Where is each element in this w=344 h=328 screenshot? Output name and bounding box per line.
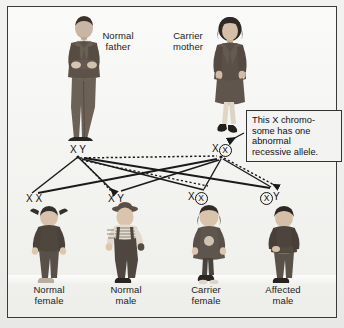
line-mother-to-child-2 xyxy=(82,160,111,191)
pedigree-figure: Normal father Carrier mother X Y XX This… xyxy=(0,0,344,328)
child-1-label: Normal female xyxy=(16,285,82,306)
line-cross-left-2 xyxy=(121,160,219,191)
father-genotype: X Y xyxy=(70,144,86,155)
line-mother-top-link xyxy=(80,156,217,158)
mother-allele-x-abnormal: X xyxy=(219,144,232,157)
child-1-figure xyxy=(20,204,78,286)
line-mother-to-child-3 xyxy=(204,159,221,189)
line-father-to-child-4-x xyxy=(84,158,270,188)
line-father-to-child-1 xyxy=(32,157,78,193)
callout-line-2: some has one xyxy=(252,126,337,137)
child-3-figure xyxy=(180,203,238,287)
father-junction xyxy=(76,155,79,158)
line-cross-left xyxy=(38,159,217,193)
illustration-frame: Normal father Carrier mother X Y XX This… xyxy=(7,6,337,318)
line-father-to-child-2 xyxy=(78,157,115,193)
child-1-genotype: X X xyxy=(26,193,42,204)
child-3-label: Carrier female xyxy=(173,285,239,306)
father-allele-x: X xyxy=(70,144,77,155)
child-1-allele-1: X xyxy=(26,193,33,204)
child-4-label: Affected male xyxy=(248,285,318,306)
father-allele-y: Y xyxy=(79,144,86,155)
mother-genotype: XX xyxy=(212,143,232,157)
callout-box: This X chromo- some has one abnormal rec… xyxy=(246,110,342,162)
callout-line-1: This X chromo- xyxy=(252,115,337,126)
mother-label: Carrier mother xyxy=(156,31,220,52)
child-4-allele-y: Y xyxy=(273,191,280,202)
line-father-to-child-3 xyxy=(82,159,204,190)
line-dotted-mid xyxy=(86,161,208,186)
line-mother-to-child-4 xyxy=(223,159,271,187)
callout-line-3: abnormal xyxy=(252,136,337,147)
callout-line-4: recessive allele. xyxy=(252,147,337,158)
child-2-figure xyxy=(96,201,154,286)
father-label: Normal father xyxy=(86,31,150,52)
child-1-allele-2: X xyxy=(35,193,42,204)
child-4-figure xyxy=(256,204,312,286)
child-3-allele-1: X xyxy=(188,191,195,202)
mother-allele-x: X xyxy=(212,143,219,154)
child-2-label: Normal male xyxy=(93,285,159,306)
child-4-genotype: XY xyxy=(260,191,280,205)
